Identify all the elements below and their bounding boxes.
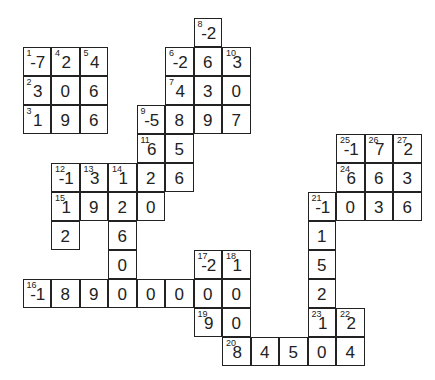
puzzle-cell[interactable]: 0 <box>222 308 251 337</box>
puzzle-cell[interactable]: 23 <box>23 76 52 105</box>
puzzle-cell[interactable]: 8 <box>51 279 80 308</box>
cell-value: 0 <box>195 286 222 304</box>
cell-value: 9 <box>81 199 108 217</box>
puzzle-cell[interactable]: 54 <box>80 47 109 76</box>
puzzle-cell[interactable]: 2 <box>108 192 137 221</box>
puzzle-cell[interactable]: 7 <box>222 105 251 134</box>
puzzle-cell[interactable]: 42 <box>51 47 80 76</box>
puzzle-cell[interactable]: 9 <box>194 105 223 134</box>
puzzle-cell[interactable]: 116 <box>137 134 166 163</box>
puzzle-cell[interactable]: 2 <box>51 221 80 250</box>
puzzle-cell[interactable]: 0 <box>336 192 365 221</box>
cell-value: 0 <box>138 286 165 304</box>
puzzle-cell[interactable]: 9 <box>80 279 109 308</box>
puzzle-cell[interactable]: 267 <box>365 134 394 163</box>
puzzle-cell[interactable]: 4 <box>251 337 280 366</box>
puzzle-cell[interactable]: 208 <box>222 337 251 366</box>
puzzle-cell[interactable]: 199 <box>194 308 223 337</box>
cell-value: 4 <box>252 344 279 362</box>
cell-value: 1 <box>52 199 79 217</box>
cell-value: 2 <box>337 315 364 333</box>
cell-value: 4 <box>81 54 108 72</box>
puzzle-cell[interactable]: 222 <box>336 308 365 337</box>
puzzle-cell[interactable]: 2 <box>308 279 337 308</box>
puzzle-cell[interactable]: 6 <box>80 105 109 134</box>
cell-value: 6 <box>394 199 421 217</box>
puzzle-cell[interactable]: 0 <box>108 250 137 279</box>
puzzle-cell[interactable]: 6 <box>365 163 394 192</box>
cell-value: 3 <box>394 170 421 188</box>
puzzle-cell[interactable]: 6 <box>194 47 223 76</box>
puzzle-cell[interactable]: 9-5 <box>137 105 166 134</box>
puzzle-cell[interactable]: 6 <box>393 192 422 221</box>
puzzle-cell[interactable]: 3 <box>365 192 394 221</box>
puzzle-cell[interactable]: 133 <box>80 163 109 192</box>
cell-value: 0 <box>337 199 364 217</box>
cell-value: 6 <box>138 141 165 159</box>
puzzle-cell[interactable]: 6 <box>80 76 109 105</box>
cell-value: -2 <box>195 257 222 275</box>
cell-value: -7 <box>24 54 51 72</box>
crossword-board: 8-21-742546-261032306743031969-589711652… <box>0 0 435 380</box>
cell-value: 8 <box>223 344 250 362</box>
cell-value: 3 <box>195 83 222 101</box>
puzzle-cell[interactable]: 0 <box>165 279 194 308</box>
cell-value: 0 <box>223 286 250 304</box>
puzzle-cell[interactable]: 231 <box>308 308 337 337</box>
puzzle-cell[interactable]: 3 <box>393 163 422 192</box>
puzzle-cell[interactable]: 1 <box>308 221 337 250</box>
puzzle-cell[interactable]: 0 <box>137 279 166 308</box>
cell-value: 1 <box>309 228 336 246</box>
cell-value: 3 <box>366 199 393 217</box>
puzzle-cell[interactable]: 1-7 <box>23 47 52 76</box>
cell-value: 7 <box>366 141 393 159</box>
puzzle-cell[interactable]: 2 <box>137 163 166 192</box>
puzzle-cell[interactable]: 31 <box>23 105 52 134</box>
puzzle-cell[interactable]: 0 <box>108 279 137 308</box>
puzzle-cell[interactable]: 16-1 <box>23 279 52 308</box>
cell-value: 2 <box>52 228 79 246</box>
puzzle-cell[interactable]: 8 <box>165 105 194 134</box>
puzzle-cell[interactable]: 0 <box>222 279 251 308</box>
puzzle-cell[interactable]: 0 <box>194 279 223 308</box>
puzzle-cell[interactable]: 21-1 <box>308 192 337 221</box>
cell-value: -2 <box>195 25 222 43</box>
puzzle-cell[interactable]: 9 <box>51 105 80 134</box>
cell-value: 2 <box>138 170 165 188</box>
puzzle-cell[interactable]: 141 <box>108 163 137 192</box>
cell-value: 0 <box>138 199 165 217</box>
puzzle-cell[interactable]: 5 <box>308 250 337 279</box>
puzzle-cell[interactable]: 5 <box>279 337 308 366</box>
cell-value: 4 <box>166 83 193 101</box>
puzzle-cell[interactable]: 6 <box>108 221 137 250</box>
puzzle-cell[interactable]: 17-2 <box>194 250 223 279</box>
puzzle-cell[interactable]: 181 <box>222 250 251 279</box>
puzzle-cell[interactable]: 12-1 <box>51 163 80 192</box>
puzzle-cell[interactable]: 0 <box>137 192 166 221</box>
cell-value: 3 <box>223 54 250 72</box>
puzzle-cell[interactable]: 6 <box>165 163 194 192</box>
puzzle-cell[interactable]: 3 <box>194 76 223 105</box>
cell-value: 2 <box>52 54 79 72</box>
cell-value: 1 <box>109 170 136 188</box>
puzzle-cell[interactable]: 272 <box>393 134 422 163</box>
cell-value: 7 <box>223 112 250 130</box>
puzzle-cell[interactable]: 8-2 <box>194 18 223 47</box>
puzzle-cell[interactable]: 103 <box>222 47 251 76</box>
puzzle-cell[interactable]: 6-2 <box>165 47 194 76</box>
cell-value: 9 <box>195 315 222 333</box>
puzzle-cell[interactable]: 0 <box>51 76 80 105</box>
puzzle-cell[interactable]: 0 <box>308 337 337 366</box>
puzzle-cell[interactable]: 0 <box>222 76 251 105</box>
puzzle-cell[interactable]: 74 <box>165 76 194 105</box>
puzzle-cell[interactable]: 5 <box>165 134 194 163</box>
puzzle-cell[interactable]: 25-1 <box>336 134 365 163</box>
puzzle-cell[interactable]: 246 <box>336 163 365 192</box>
cell-value: 3 <box>81 170 108 188</box>
cell-value: 0 <box>109 286 136 304</box>
cell-value: 5 <box>166 141 193 159</box>
cell-value: 0 <box>309 344 336 362</box>
puzzle-cell[interactable]: 151 <box>51 192 80 221</box>
puzzle-cell[interactable]: 9 <box>80 192 109 221</box>
puzzle-cell[interactable]: 4 <box>336 337 365 366</box>
